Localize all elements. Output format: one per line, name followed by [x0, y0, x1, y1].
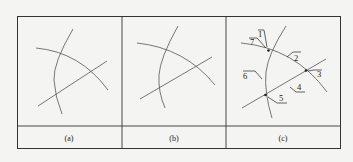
panel-b-caption: (b): [169, 134, 179, 143]
panel-c-straight-line: [242, 59, 326, 108]
figure-frame: [18, 17, 341, 149]
panel-c-curve-line: [241, 43, 327, 92]
callout-4: 4: [297, 82, 302, 92]
panel-a-caption: (a): [65, 134, 74, 143]
callout-3: 3: [317, 69, 321, 79]
panel-a-straight-line: [38, 61, 107, 106]
callout-1: 1: [258, 29, 262, 39]
intersection-bottom: [264, 94, 267, 97]
callout-7: 7: [250, 37, 254, 47]
panel-c-caption: (c): [279, 134, 288, 143]
panel-a-arc-line: [54, 29, 73, 114]
callout-2: 2: [294, 53, 298, 63]
panel-b-arc-line: [159, 26, 178, 108]
panel-b-straight-line: [140, 57, 212, 99]
panel-c: 1 7 2 3 4 5 6 (c): [241, 26, 327, 143]
panel-b-curve-line: [137, 43, 215, 85]
callout-5: 5: [279, 93, 283, 103]
panel-c-arc-line: [266, 26, 286, 118]
intersection-right: [305, 69, 308, 72]
figure-diagram: (a) (b) 1 7 2 3 4 5 6: [0, 0, 353, 162]
intersection-top: [267, 49, 270, 52]
leader-5: [268, 97, 287, 103]
callout-6: 6: [243, 71, 247, 81]
panel-b: (b): [137, 26, 215, 143]
